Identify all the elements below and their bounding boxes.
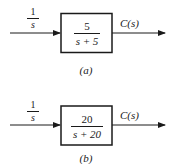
block-transfer-function-a: 5 s + 5 [74, 20, 100, 47]
block-numerator-b: 20 [71, 113, 103, 126]
output-label-a: C(s) [120, 18, 139, 29]
input-label-b: 1 s [27, 100, 39, 123]
block-denominator-a: s + 5 [74, 33, 100, 47]
block-numerator-a: 5 [74, 20, 100, 33]
input-denominator-b: s [27, 111, 39, 123]
input-numerator-a: 1 [27, 7, 39, 18]
input-label-a: 1 s [27, 7, 39, 30]
caption-a: (a) [71, 64, 101, 76]
output-label-b: C(s) [120, 110, 139, 121]
caption-b: (b) [71, 152, 101, 164]
input-denominator-a: s [27, 18, 39, 30]
block-transfer-function-b: 20 s + 20 [71, 113, 103, 140]
input-numerator-b: 1 [27, 100, 39, 111]
block-denominator-b: s + 20 [71, 126, 103, 140]
